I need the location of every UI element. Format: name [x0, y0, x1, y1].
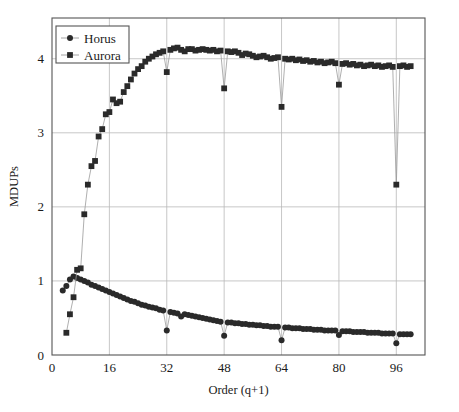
- data-point: [408, 331, 414, 337]
- chart-container: 0163248648096 01234 Order (q+1) MDUPs Ho…: [0, 0, 459, 412]
- data-point: [117, 99, 123, 105]
- x-axis-ticks: 0163248648096: [49, 360, 404, 375]
- y-tick-label: 1: [38, 273, 45, 288]
- data-point: [164, 69, 170, 75]
- series-aurora: [63, 45, 413, 336]
- data-point: [275, 324, 281, 330]
- legend-marker-square: [67, 52, 73, 58]
- data-point: [332, 60, 338, 66]
- data-point: [221, 333, 227, 339]
- chart-legend: HorusAurora: [56, 26, 129, 63]
- legend-label: Aurora: [84, 48, 121, 63]
- series-horus: [60, 273, 414, 346]
- data-point: [160, 308, 166, 314]
- legend-label: Horus: [84, 31, 116, 46]
- x-tick-label: 0: [49, 360, 56, 375]
- y-tick-label: 4: [38, 51, 45, 66]
- data-point: [160, 48, 166, 54]
- data-point: [128, 77, 134, 83]
- y-tick-label: 3: [38, 125, 45, 140]
- data-point: [408, 63, 414, 69]
- data-point: [336, 82, 342, 88]
- data-point: [71, 294, 77, 300]
- data-point: [63, 330, 69, 336]
- y-axis-ticks: 01234: [38, 51, 45, 362]
- y-axis-title: MDUPs: [7, 166, 21, 207]
- data-point: [78, 265, 84, 271]
- x-tick-label: 48: [218, 360, 231, 375]
- data-point: [390, 64, 396, 70]
- y-tick-label: 0: [38, 348, 45, 363]
- x-tick-label: 96: [390, 360, 404, 375]
- data-point: [96, 134, 102, 140]
- data-point: [218, 48, 224, 54]
- x-axis-title: Order (q+1): [208, 383, 268, 397]
- data-point: [390, 331, 396, 337]
- data-point: [63, 283, 69, 289]
- data-series: [60, 45, 414, 346]
- data-point: [221, 85, 227, 91]
- chart-svg: 0163248648096 01234 Order (q+1) MDUPs Ho…: [0, 0, 459, 412]
- data-point: [124, 83, 130, 89]
- series-line: [66, 48, 410, 333]
- data-point: [89, 163, 95, 169]
- x-tick-label: 80: [332, 360, 345, 375]
- legend-marker-circle: [67, 35, 73, 41]
- x-tick-label: 16: [103, 360, 117, 375]
- gridlines: [52, 18, 425, 355]
- data-point: [67, 311, 73, 317]
- y-tick-label: 2: [38, 199, 45, 214]
- data-point: [106, 109, 112, 115]
- data-point: [393, 182, 399, 188]
- x-tick-label: 32: [160, 360, 173, 375]
- data-point: [92, 158, 98, 164]
- plot-frame: [52, 18, 425, 355]
- data-point: [121, 89, 127, 95]
- data-point: [279, 104, 285, 110]
- x-tick-label: 64: [275, 360, 289, 375]
- data-point: [218, 319, 224, 325]
- data-point: [81, 211, 87, 217]
- data-point: [275, 54, 281, 60]
- data-point: [393, 340, 399, 346]
- data-point: [85, 182, 91, 188]
- data-point: [164, 328, 170, 334]
- data-point: [279, 337, 285, 343]
- data-point: [99, 126, 105, 132]
